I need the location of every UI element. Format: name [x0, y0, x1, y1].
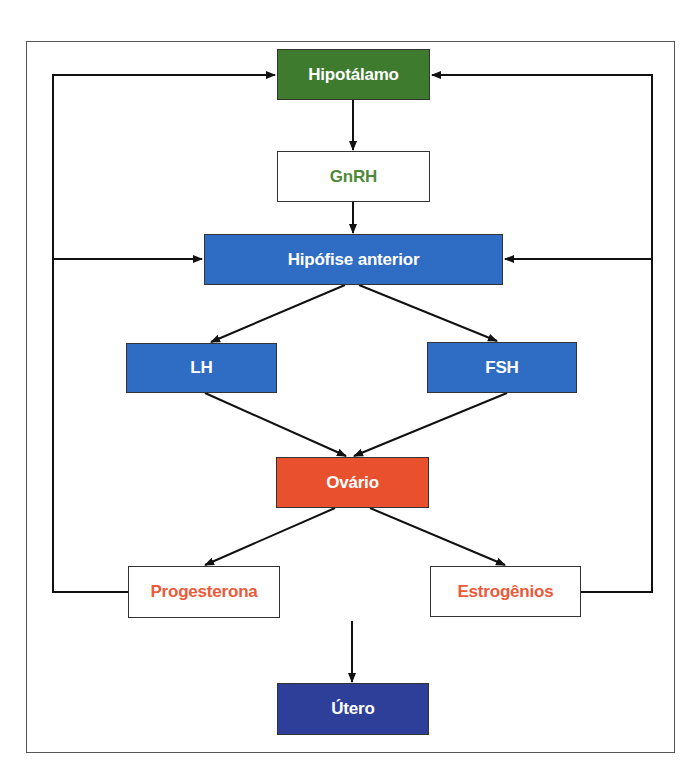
node-label: Útero — [331, 699, 374, 719]
node-hipotalamo: Hipotálamo — [277, 49, 430, 100]
node-label: Hipófise anterior — [288, 250, 420, 270]
node-label: Hipotálamo — [308, 65, 399, 85]
node-fsh: FSH — [427, 342, 577, 393]
node-estrogenios: Estrogênios — [430, 566, 581, 617]
node-utero: Útero — [277, 683, 429, 735]
node-label: Estrogênios — [457, 582, 553, 602]
node-label: Ovário — [326, 473, 379, 493]
node-hipofise-anterior: Hipófise anterior — [204, 234, 503, 285]
node-label: Progesterona — [150, 582, 257, 602]
node-label: LH — [190, 358, 212, 378]
node-gnrh: GnRH — [277, 151, 430, 202]
node-progesterona: Progesterona — [128, 566, 280, 618]
node-ovario: Ovário — [276, 457, 429, 508]
node-lh: LH — [126, 343, 277, 393]
node-label: GnRH — [330, 167, 377, 187]
connector-lines — [0, 0, 691, 780]
node-label: FSH — [485, 358, 518, 378]
